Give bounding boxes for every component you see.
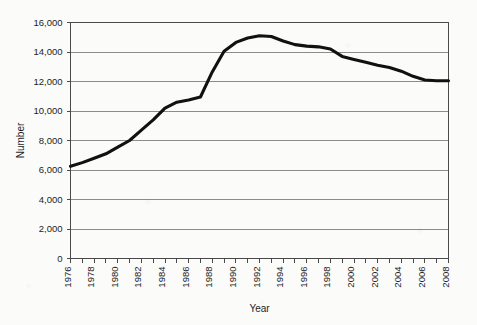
- x-tick-label-1994: 1994: [274, 267, 285, 288]
- x-tick-label-1984: 1984: [156, 267, 167, 288]
- x-tick-label-1980: 1980: [109, 267, 120, 288]
- data-line-series-number: [71, 36, 449, 167]
- x-tick-label-1988: 1988: [203, 267, 214, 288]
- x-axis-ticks: [71, 259, 449, 263]
- x-tick-label-2000: 2000: [345, 267, 356, 288]
- x-tick-label-1992: 1992: [251, 267, 262, 288]
- y-tick-label-8000: 8,000: [39, 135, 63, 146]
- x-tick-label-2004: 2004: [392, 267, 403, 288]
- x-tick-label-1982: 1982: [132, 267, 143, 288]
- chart-page: 02,0004,0006,0008,00010,00012,00014,0001…: [0, 0, 477, 325]
- y-tick-label-2000: 2,000: [39, 223, 63, 234]
- x-tick-label-1978: 1978: [85, 267, 96, 288]
- x-tick-label-1996: 1996: [298, 267, 309, 288]
- y-axis-tick-labels: 02,0004,0006,0008,00010,00012,00014,0001…: [33, 17, 70, 264]
- x-axis-tick-labels: 1976197819801982198419861988199019921994…: [62, 267, 451, 288]
- y-tick-label-0: 0: [57, 253, 62, 264]
- x-tick-label-2008: 2008: [440, 267, 451, 288]
- x-tick-label-1976: 1976: [62, 267, 73, 288]
- y-axis-title: Number: [15, 122, 26, 158]
- y-tick-label-6000: 6,000: [39, 164, 63, 175]
- x-tick-label-1998: 1998: [321, 267, 332, 288]
- y-tick-label-4000: 4,000: [39, 194, 63, 205]
- x-tick-label-2002: 2002: [369, 267, 380, 288]
- y-tick-label-10000: 10,000: [33, 105, 62, 116]
- y-tick-label-16000: 16,000: [33, 17, 62, 28]
- line-chart: 02,0004,0006,0008,00010,00012,00014,0001…: [0, 0, 477, 325]
- x-axis-title: Year: [249, 303, 270, 314]
- y-tick-label-12000: 12,000: [33, 76, 62, 87]
- y-tick-label-14000: 14,000: [33, 46, 62, 57]
- x-tick-label-1986: 1986: [180, 267, 191, 288]
- x-tick-label-1990: 1990: [227, 267, 238, 288]
- x-tick-label-2006: 2006: [416, 267, 427, 288]
